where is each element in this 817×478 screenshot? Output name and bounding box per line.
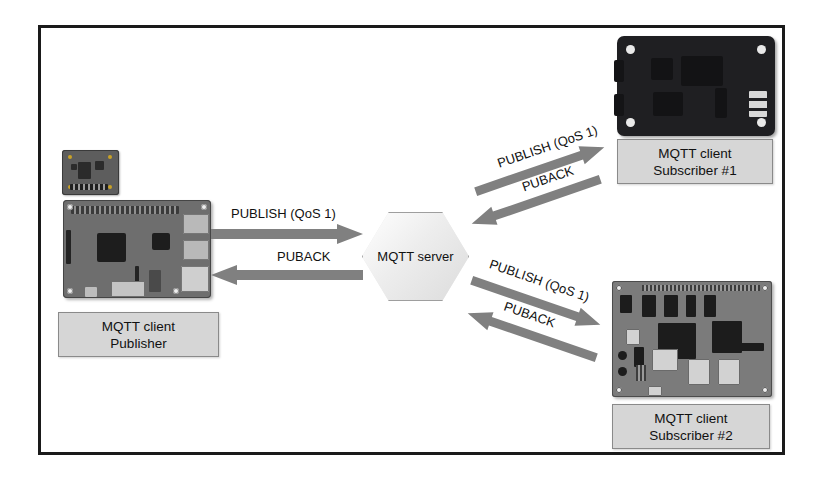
caption-subscriber-2: MQTT client Subscriber #2	[612, 404, 770, 449]
mqtt-server-label: MQTT server	[362, 212, 469, 301]
label-puback-to-publisher: PUBACK	[277, 249, 330, 264]
caption-subscriber-2-line2: Subscriber #2	[649, 427, 732, 444]
caption-subscriber-1-line2: Subscriber #1	[653, 162, 736, 179]
arrow-publisher-to-server	[211, 224, 363, 244]
caption-subscriber-1: MQTT client Subscriber #1	[617, 139, 773, 184]
mqtt-server-hexagon: MQTT server	[362, 212, 469, 301]
sensor-breakout-board-image	[62, 150, 119, 195]
label-publish-to-server: PUBLISH (QoS 1)	[231, 206, 336, 221]
caption-subscriber-1-line1: MQTT client	[658, 145, 731, 162]
caption-publisher: MQTT client Publisher	[58, 312, 219, 357]
caption-publisher-line2: Publisher	[110, 335, 166, 352]
caption-subscriber-2-line1: MQTT client	[654, 410, 727, 427]
arrow-server-to-publisher	[211, 265, 363, 285]
publisher-device-image	[63, 200, 211, 298]
mqtt-qos1-diagram: MQTT client Publisher MQTT server MQTT c…	[0, 0, 817, 478]
subscriber-2-device-image	[612, 281, 772, 397]
caption-publisher-line1: MQTT client	[102, 318, 175, 335]
subscriber-1-device-image	[617, 36, 775, 136]
